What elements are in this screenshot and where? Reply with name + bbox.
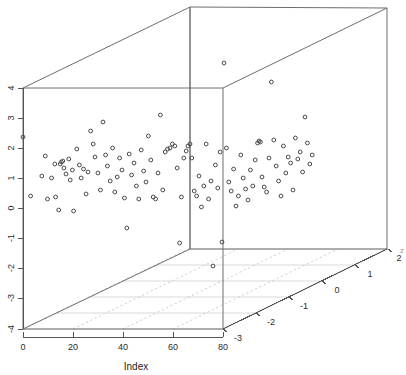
data-point (84, 192, 88, 196)
y-tick-label: 0 (6, 205, 16, 210)
z-tick (289, 297, 293, 300)
data-point (209, 179, 213, 183)
x-tick-label: 40 (118, 342, 128, 352)
data-point (68, 178, 72, 182)
data-point (130, 173, 134, 177)
data-point (251, 184, 255, 188)
data-point (180, 195, 184, 199)
x-tick-label: 60 (168, 342, 178, 352)
data-point (267, 156, 271, 160)
data-points-group (21, 61, 314, 268)
data-point (178, 241, 182, 245)
x-axis-title: Index (124, 361, 148, 372)
data-point (272, 138, 276, 142)
z-tick (223, 329, 227, 332)
data-point (214, 163, 218, 167)
floor-grid-group (23, 249, 388, 329)
data-point (284, 171, 288, 175)
data-point (308, 162, 312, 166)
data-point (91, 142, 95, 146)
data-point (161, 188, 165, 192)
data-point (132, 161, 136, 165)
data-point (149, 158, 153, 162)
z-tick-label: -2 (267, 317, 275, 327)
x-tick-label: 20 (68, 342, 78, 352)
data-point (72, 209, 76, 213)
data-point (137, 197, 141, 201)
data-point (207, 197, 211, 201)
data-point (106, 164, 110, 168)
box-back-face (190, 7, 387, 249)
y-axis-group: 4 3 2 1 0 -1 -2 -3 -4 (6, 85, 23, 333)
z-axis-group: -3 -2 -1 0 1 2 z (223, 246, 404, 343)
data-point (274, 164, 278, 168)
x-tick-label: 0 (20, 342, 25, 352)
data-point (204, 142, 208, 146)
data-point (225, 146, 229, 150)
data-point (147, 134, 151, 138)
clipped-axis-label: z (400, 246, 404, 255)
data-point (43, 154, 47, 158)
data-point (277, 179, 281, 183)
data-point (237, 194, 241, 198)
data-point (218, 150, 222, 154)
plot-canvas: 4 3 2 1 0 -1 -2 -3 -4 0 20 40 60 80 Inde… (0, 0, 406, 375)
z-tick (256, 313, 260, 316)
floor-grid-diagonal (73, 249, 238, 329)
data-point (244, 187, 248, 191)
data-point (78, 163, 82, 167)
data-point (227, 180, 231, 184)
data-point (101, 120, 105, 124)
data-point (79, 176, 83, 180)
z-tick (355, 265, 359, 268)
z-tick (388, 249, 392, 252)
data-point (93, 155, 97, 159)
z-axis-line (223, 249, 387, 329)
data-point (118, 156, 122, 160)
box-front-face (23, 88, 223, 329)
y-tick-label: 3 (6, 115, 16, 120)
data-point (222, 61, 226, 65)
data-point (67, 157, 71, 161)
box-edge-top-right (223, 8, 387, 88)
data-point (82, 167, 86, 171)
data-point (89, 129, 93, 133)
data-point (175, 166, 179, 170)
data-point (184, 149, 188, 153)
data-point (202, 184, 206, 188)
data-point (29, 194, 33, 198)
z-tick-label: 0 (334, 285, 339, 295)
data-point (229, 189, 233, 193)
data-point (159, 113, 163, 117)
data-point (62, 166, 66, 170)
data-point (144, 180, 148, 184)
y-tick-label: -4 (6, 325, 16, 333)
data-point (239, 153, 243, 157)
data-point (260, 175, 264, 179)
z-tick-label: -1 (300, 301, 308, 311)
data-point (265, 190, 269, 194)
data-point (54, 195, 58, 199)
data-point (289, 161, 293, 165)
data-point (291, 188, 295, 192)
data-point (262, 185, 266, 189)
data-point (310, 153, 314, 157)
data-point (232, 167, 236, 171)
z-tick-label: -3 (234, 333, 242, 343)
x-tick-label: 80 (218, 342, 228, 352)
data-point (139, 148, 143, 152)
data-point (142, 169, 146, 173)
data-point (104, 153, 108, 157)
data-point (306, 141, 310, 145)
data-point (294, 136, 298, 140)
data-point (301, 170, 305, 174)
data-point (50, 176, 54, 180)
data-point (108, 179, 112, 183)
y-tick-label: -3 (6, 294, 16, 302)
data-point (234, 204, 238, 208)
data-point (99, 188, 103, 192)
data-point (57, 208, 61, 212)
data-point (246, 198, 250, 202)
data-point (123, 196, 127, 200)
data-point (303, 115, 307, 119)
